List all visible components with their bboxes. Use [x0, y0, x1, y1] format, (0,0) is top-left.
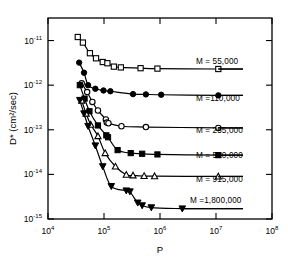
data-point-marker	[77, 83, 82, 88]
data-point-marker	[111, 64, 116, 69]
data-point-marker	[158, 92, 163, 97]
diffusion-chart: 10410510610710810-1110-1210-1310-1410-15…	[0, 0, 288, 265]
series-label: M =1,800,000	[190, 196, 242, 205]
data-point-marker	[123, 172, 129, 178]
y-axis-title: D* (cm²/sec)	[7, 92, 18, 145]
y-tick-label: 10-12	[24, 79, 43, 90]
data-point-marker	[130, 91, 135, 96]
data-point-marker	[155, 66, 160, 71]
x-tick-label: 105	[98, 225, 111, 236]
data-point-marker	[141, 173, 147, 179]
data-point-marker	[108, 89, 113, 94]
data-point-marker	[130, 172, 136, 178]
data-point-marker	[80, 40, 85, 45]
data-point-marker	[90, 99, 95, 104]
series-label: M = 915,000	[196, 175, 243, 184]
data-point-marker	[95, 123, 100, 128]
data-point-marker	[119, 124, 124, 129]
x-tick-label: 108	[266, 225, 279, 236]
data-point-marker	[75, 34, 80, 39]
data-point-marker	[101, 88, 106, 93]
x-axis-title: P	[157, 244, 163, 255]
data-point-marker	[105, 135, 110, 140]
data-point-marker	[81, 70, 86, 75]
data-point-marker	[99, 164, 106, 170]
data-point-marker	[76, 60, 81, 65]
data-point-marker	[95, 133, 101, 139]
data-point-marker	[93, 56, 98, 61]
x-tick-label: 104	[42, 225, 55, 236]
series-label: M = 55,000	[196, 57, 239, 66]
series-curve	[79, 63, 218, 96]
data-point-marker	[93, 86, 98, 91]
y-tick-label: 10-13	[24, 124, 43, 135]
data-point-marker	[118, 65, 123, 70]
data-point-marker	[140, 151, 145, 156]
x-tick-label: 106	[154, 225, 167, 236]
y-tick-label: 10-15	[24, 213, 43, 224]
data-point-marker	[155, 152, 160, 157]
data-point-marker	[84, 89, 89, 94]
data-point-marker	[102, 150, 108, 156]
data-point-marker	[92, 143, 99, 149]
data-point-marker	[108, 184, 115, 190]
data-point-marker	[128, 150, 133, 155]
data-point-marker	[106, 121, 111, 126]
series-labels-layer: M = 55,000M =110,000M = 255,000M = 520,0…	[182, 57, 243, 209]
x-tick-label: 107	[210, 225, 223, 236]
data-point-marker	[139, 203, 146, 209]
data-point-marker	[143, 124, 148, 129]
plot-frame	[48, 18, 272, 219]
y-tick-label: 10-14	[24, 168, 43, 179]
series-label: M = 255,000	[196, 126, 243, 135]
data-point-marker	[105, 61, 110, 66]
data-point-marker	[85, 82, 90, 87]
y-tick-label: 10-11	[24, 35, 42, 46]
data-point-marker	[143, 92, 148, 97]
series-label: M =110,000	[196, 94, 240, 103]
series-label: M = 520,000	[196, 151, 243, 160]
data-point-marker	[151, 173, 157, 179]
data-point-marker	[95, 108, 100, 113]
data-point-marker	[115, 148, 120, 153]
figure-container: 10410510610710810-1110-1210-1310-1410-15…	[0, 0, 288, 265]
data-point-marker	[138, 66, 143, 71]
data-point-marker	[87, 51, 92, 56]
